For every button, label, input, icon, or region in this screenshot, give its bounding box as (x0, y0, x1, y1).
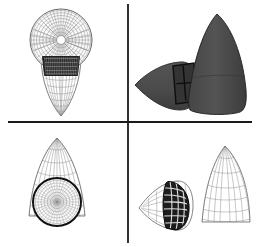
solid-cone-body (189, 14, 247, 114)
ogive-wireframe-cone-rear (202, 146, 250, 222)
panel-top-left (30, 9, 92, 116)
mesh-figure-container (0, 0, 262, 247)
mesh-figure-svg (0, 0, 262, 247)
panel-bottom-left (29, 138, 85, 227)
panel-bottom-right (139, 146, 250, 230)
sphere-pole-hole (57, 36, 66, 45)
panel-top-right (135, 14, 246, 114)
dark-grid-band (43, 57, 80, 76)
circular-polar-mesh-disc (32, 177, 82, 227)
